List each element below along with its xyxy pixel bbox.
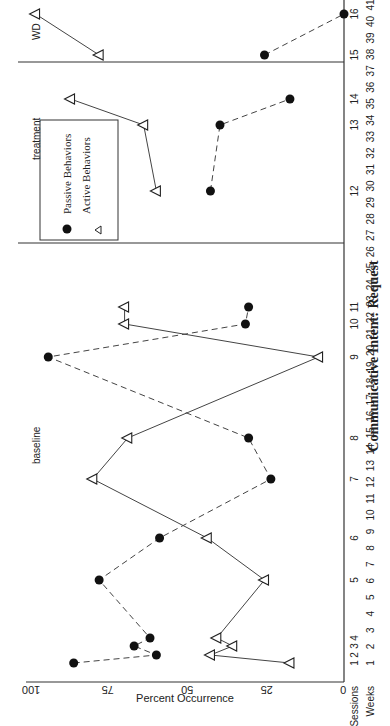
passive-line: [48, 307, 271, 663]
y-axis-title: Percent Occurrence: [136, 692, 234, 704]
active-line: [93, 307, 319, 663]
active-point: [93, 50, 103, 60]
week-tick-label: 28: [365, 213, 376, 225]
phase-label: WD: [31, 23, 42, 40]
passive-point: [215, 121, 224, 130]
legend-box: [40, 120, 118, 240]
line-chart: Communicative Intent: Request 0255075100…: [0, 0, 390, 726]
active-point: [30, 9, 40, 19]
passive-point: [130, 642, 139, 651]
passive-point: [152, 651, 161, 660]
passive-point: [206, 187, 215, 196]
session-tick-label: 3: [349, 643, 360, 649]
session-tick-label: 11: [349, 301, 360, 312]
triangle-icon: [95, 226, 101, 234]
active-point: [211, 633, 221, 643]
legend: Active Behaviors Passive Behaviors: [40, 120, 118, 240]
week-tick-label: 40: [365, 15, 376, 27]
axes: 0255075100Percent Occurrence123456789101…: [22, 0, 376, 726]
passive-point: [155, 534, 164, 543]
week-tick-label: 25: [365, 262, 376, 274]
passive-point: [241, 320, 250, 329]
week-tick-label: 33: [365, 131, 376, 143]
session-tick-label: 6: [349, 535, 360, 541]
week-tick-label: 16: [365, 410, 376, 422]
legend-label-active: Active Behaviors: [80, 137, 92, 214]
passive-line: [265, 14, 345, 55]
week-tick-label: 15: [365, 427, 376, 439]
week-tick-label: 27: [365, 229, 376, 241]
passive-point: [340, 10, 349, 19]
active-point: [119, 302, 129, 312]
week-tick-label: 5: [365, 594, 376, 600]
week-tick-label: 3: [365, 627, 376, 633]
week-tick-label: 35: [365, 98, 376, 110]
week-tick-label: 22: [365, 312, 376, 324]
passive-point: [285, 95, 294, 104]
passive-point: [146, 634, 155, 643]
week-tick-label: 34: [365, 114, 376, 126]
week-tick-label: 11: [365, 493, 376, 504]
week-tick-label: 29: [365, 196, 376, 208]
week-tick-label: 4: [365, 610, 376, 616]
legend-label-passive: Passive Behaviors: [61, 134, 73, 214]
session-tick-label: 13: [349, 119, 360, 131]
week-tick-label: 6: [365, 578, 376, 584]
y-tick-label: 25: [261, 684, 273, 696]
session-tick-label: 10: [349, 318, 360, 330]
circle-icon: [63, 225, 72, 234]
passive-point: [69, 659, 78, 668]
active-point: [122, 433, 132, 443]
active-point: [313, 352, 323, 362]
passive-point: [95, 576, 104, 585]
y-tick-label: 0: [340, 684, 346, 696]
week-tick-label: 18: [365, 377, 376, 389]
week-tick-label: 30: [365, 180, 376, 192]
week-tick-label: 7: [365, 561, 376, 567]
week-tick-label: 31: [365, 164, 376, 176]
passive-point: [244, 434, 253, 443]
week-tick-label: 36: [365, 81, 376, 93]
session-tick-label: 7: [349, 476, 360, 482]
active-point: [65, 94, 75, 104]
y-tick-label: 75: [102, 684, 114, 696]
active-point: [138, 120, 148, 130]
passive-point: [244, 303, 253, 312]
session-tick-label: 4: [349, 635, 360, 641]
active-point: [284, 658, 294, 668]
active-point: [119, 319, 129, 329]
active-point: [87, 474, 97, 484]
phase-label: baseline: [31, 426, 42, 464]
session-tick-label: 2: [349, 652, 360, 658]
week-tick-label: 32: [365, 147, 376, 159]
week-tick-label: 12: [365, 476, 376, 488]
passive-point: [44, 353, 53, 362]
week-tick-label: 23: [365, 295, 376, 307]
session-tick-label: 15: [349, 49, 360, 61]
week-tick-label: 37: [365, 65, 376, 77]
week-tick-label: 38: [365, 48, 376, 60]
phase-lines: baselinetreatmentWD: [18, 23, 344, 464]
week-tick-label: 14: [365, 443, 376, 455]
chart-stage: Communicative Intent: Request 0255075100…: [0, 0, 390, 726]
week-tick-label: 13: [365, 460, 376, 472]
week-tick-label: 2: [365, 643, 376, 649]
sessions-row-label: Sessions: [349, 686, 360, 726]
data-series: [30, 9, 349, 668]
week-tick-label: 1: [365, 660, 376, 666]
week-tick-label: 19: [365, 361, 376, 373]
active-point: [201, 533, 211, 543]
session-tick-label: 5: [349, 577, 360, 583]
session-tick-label: 8: [349, 435, 360, 441]
passive-point: [266, 475, 275, 484]
week-tick-label: 41: [365, 0, 376, 11]
session-tick-label: 9: [349, 354, 360, 360]
week-tick-label: 10: [365, 509, 376, 521]
week-tick-label: 8: [365, 545, 376, 551]
week-tick-label: 20: [365, 344, 376, 356]
y-tick-label: 100: [22, 684, 40, 696]
session-tick-label: 12: [349, 185, 360, 197]
week-tick-label: 17: [365, 394, 376, 406]
active-point: [227, 641, 237, 651]
session-tick-label: 14: [349, 93, 360, 105]
